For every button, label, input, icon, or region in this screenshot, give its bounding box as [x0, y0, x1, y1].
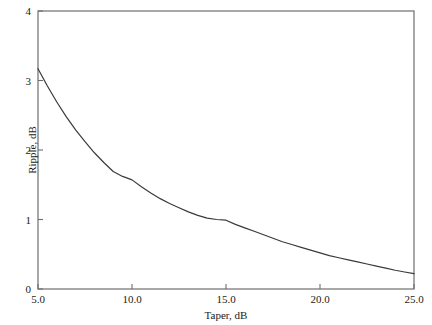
- x-tick-label-3: 15.0: [216, 294, 235, 305]
- y-axis-title: Ripple, dB: [27, 126, 38, 174]
- y-tick-label-1: 0: [26, 284, 32, 295]
- plot-canvas: [0, 0, 432, 325]
- x-tick-marks: [38, 284, 414, 289]
- y-tick-label-2: 1: [26, 214, 32, 225]
- x-tick-label-1: 5.0: [31, 294, 45, 305]
- data-series-line: [38, 69, 414, 274]
- x-tick-label-5: 25.0: [404, 294, 423, 305]
- chart-figure: 5.0 10.0 15.0 20.0 25.0 0 1 2 3 4 Taper,…: [0, 0, 432, 325]
- y-tick-label-4: 3: [26, 75, 32, 86]
- x-tick-label-2: 10.0: [122, 294, 141, 305]
- plot-frame: [38, 11, 414, 289]
- x-axis-title: Taper, dB: [205, 310, 248, 321]
- y-tick-label-5: 4: [26, 6, 32, 17]
- x-tick-label-4: 20.0: [310, 294, 329, 305]
- y-tick-marks: [38, 11, 43, 289]
